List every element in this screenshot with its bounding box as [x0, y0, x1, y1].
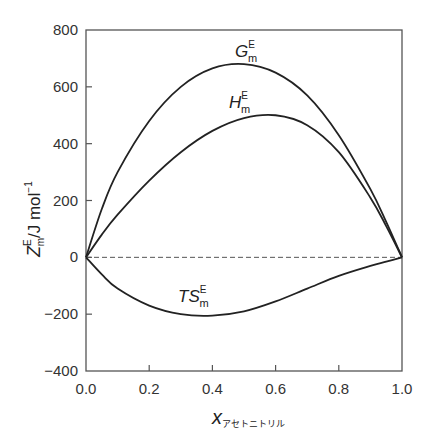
- x-tick-label: 0.0: [76, 380, 97, 397]
- x-tick-label: 0.2: [139, 380, 160, 397]
- x-tick-label: 0.8: [328, 380, 349, 397]
- curves: [86, 64, 402, 316]
- x-tick-label: 1.0: [392, 380, 413, 397]
- x-tick-label: 0.6: [265, 380, 286, 397]
- label-enthalpy-excess: HEm: [229, 90, 250, 115]
- enthalpy-excess-curve: [86, 115, 402, 258]
- x-tick-label: 0.4: [202, 380, 223, 397]
- chart: 0.00.20.40.60.81.08006004002000−200−400 …: [0, 0, 430, 440]
- axis-ticks: 0.00.20.40.60.81.08006004002000−200−400: [44, 21, 412, 397]
- y-tick-label: 800: [53, 21, 78, 38]
- y-axis-title: ZEm/J mol−1: [22, 181, 46, 258]
- plot-border: [86, 30, 402, 371]
- x-axis-title: xアセトニトリル: [211, 406, 285, 429]
- y-tick-label: 600: [53, 78, 78, 95]
- plot-frame: [86, 30, 402, 371]
- label-gibbs-excess: GEm: [235, 39, 257, 64]
- y-tick-label: −200: [44, 305, 78, 322]
- y-tick-label: −400: [44, 362, 78, 379]
- y-tick-label: 0: [70, 248, 78, 265]
- y-tick-label: 200: [53, 192, 78, 209]
- label-entropy-excess: TSEm: [178, 284, 209, 309]
- entropy-excess-curve: [86, 257, 402, 315]
- y-tick-label: 400: [53, 135, 78, 152]
